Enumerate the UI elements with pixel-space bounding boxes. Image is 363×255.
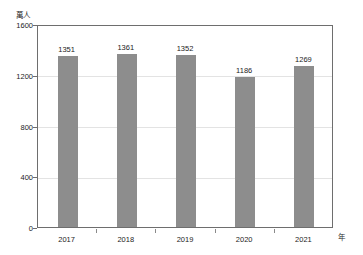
bar-chart-figure: 萬人 0400800120016001351201713612018135220…	[0, 0, 363, 255]
y-axis-tick-label: 1600	[3, 21, 33, 30]
y-axis-tick-mark	[33, 25, 37, 26]
y-axis-tick-label: 0	[3, 224, 33, 233]
x-axis-tick-mark	[215, 229, 216, 233]
y-axis-tick-mark	[33, 76, 37, 77]
y-axis-tick-mark	[33, 127, 37, 128]
y-axis-tick-label: 800	[3, 123, 33, 132]
x-axis-tick-label: 2021	[283, 235, 323, 244]
bar[interactable]	[117, 54, 137, 227]
bar-value-label: 1186	[224, 66, 264, 75]
x-axis-tick-mark	[274, 229, 275, 233]
x-axis-tick-label: 2019	[165, 235, 205, 244]
bar[interactable]	[176, 55, 196, 227]
y-axis-unit-label: 萬人	[16, 9, 30, 20]
bar-value-label: 1269	[283, 55, 323, 64]
y-axis-tick-label: 1200	[3, 72, 33, 81]
bar[interactable]	[58, 56, 78, 227]
bar-value-label: 1352	[165, 44, 205, 53]
bar-value-label: 1361	[106, 43, 146, 52]
bar[interactable]	[235, 77, 255, 227]
y-axis-tick-label: 400	[3, 173, 33, 182]
x-axis-tick-label: 2020	[224, 235, 264, 244]
x-axis-tick-mark	[96, 229, 97, 233]
x-axis-title: 年	[338, 231, 345, 242]
x-axis-tick-label: 2017	[47, 235, 87, 244]
bar-value-label: 1351	[47, 45, 87, 54]
x-axis-tick-label: 2018	[106, 235, 146, 244]
y-axis-tick-mark	[33, 177, 37, 178]
y-axis-tick-mark	[33, 228, 37, 229]
x-axis-tick-mark	[155, 229, 156, 233]
bar[interactable]	[294, 66, 314, 227]
